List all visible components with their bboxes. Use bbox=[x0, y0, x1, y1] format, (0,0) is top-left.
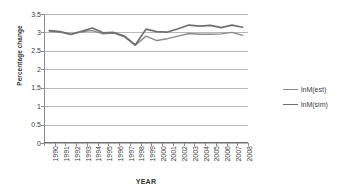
x-tick-label-2005: 2005 bbox=[213, 146, 220, 176]
x-axis-title: YEAR bbox=[44, 178, 248, 185]
series-lines bbox=[44, 14, 248, 143]
x-tick-label-1993: 1993 bbox=[85, 146, 92, 176]
gridline-0 bbox=[44, 143, 248, 144]
y-tickmark-0.5 bbox=[41, 125, 44, 126]
x-tick-label-2001: 2001 bbox=[170, 146, 177, 176]
y-tickmark-3.5 bbox=[41, 14, 44, 15]
y-tickmark-0 bbox=[41, 143, 44, 144]
x-tick-label-1997: 1997 bbox=[128, 146, 135, 176]
y-tick-label-3: 3 bbox=[14, 29, 41, 36]
series-line-lnmsim bbox=[49, 25, 242, 45]
y-tick-label-3.5: 3.5 bbox=[14, 11, 41, 18]
y-tickmark-1 bbox=[41, 106, 44, 107]
x-axis-tick-labels: 1990199119921993199419951996199719981999… bbox=[44, 146, 248, 178]
y-tick-label-2: 2 bbox=[14, 66, 41, 73]
x-tick-label-2003: 2003 bbox=[192, 146, 199, 176]
y-tick-label-0: 0 bbox=[14, 140, 41, 147]
x-tick-label-1994: 1994 bbox=[95, 146, 102, 176]
y-tick-label-2.5: 2.5 bbox=[14, 47, 41, 54]
x-tick-label-1999: 1999 bbox=[149, 146, 156, 176]
y-tickmark-2 bbox=[41, 69, 44, 70]
plot-area bbox=[44, 14, 248, 143]
x-tick-label-2006: 2006 bbox=[224, 146, 231, 176]
y-tick-label-1: 1 bbox=[14, 103, 41, 110]
y-tickmark-3 bbox=[41, 32, 44, 33]
x-tick-label-2000: 2000 bbox=[160, 146, 167, 176]
x-tick-label-1995: 1995 bbox=[106, 146, 113, 176]
x-tick-label-1998: 1998 bbox=[138, 146, 145, 176]
y-tickmark-1.5 bbox=[41, 88, 44, 89]
x-tick-label-2007: 2007 bbox=[235, 146, 242, 176]
legend-item-0: lnM(est) bbox=[283, 82, 341, 97]
chart-container: Percentage change 00.511.522.533.5 19901… bbox=[0, 0, 341, 192]
x-tick-label-2002: 2002 bbox=[181, 146, 188, 176]
legend-label-lnm-sim: lnM(sim) bbox=[301, 101, 328, 108]
legend: lnM(est) lnM(sim) bbox=[283, 82, 341, 112]
x-tick-label-2004: 2004 bbox=[203, 146, 210, 176]
x-tick-label-1990: 1990 bbox=[52, 146, 59, 176]
y-tick-label-0.5: 0.5 bbox=[14, 121, 41, 128]
legend-label-lnm-est: lnM(est) bbox=[301, 86, 326, 93]
x-tick-label-1991: 1991 bbox=[63, 146, 70, 176]
x-tick-label-2008: 2008 bbox=[246, 146, 253, 176]
legend-swatch-lnm-est bbox=[283, 89, 298, 90]
y-tick-label-1.5: 1.5 bbox=[14, 84, 41, 91]
x-tick-label-1996: 1996 bbox=[117, 146, 124, 176]
x-tick-label-1992: 1992 bbox=[74, 146, 81, 176]
y-tickmark-2.5 bbox=[41, 51, 44, 52]
y-axis-tick-labels: 00.511.522.533.5 bbox=[14, 0, 41, 192]
legend-swatch-lnm-sim bbox=[283, 104, 298, 105]
legend-item-1: lnM(sim) bbox=[283, 97, 341, 112]
